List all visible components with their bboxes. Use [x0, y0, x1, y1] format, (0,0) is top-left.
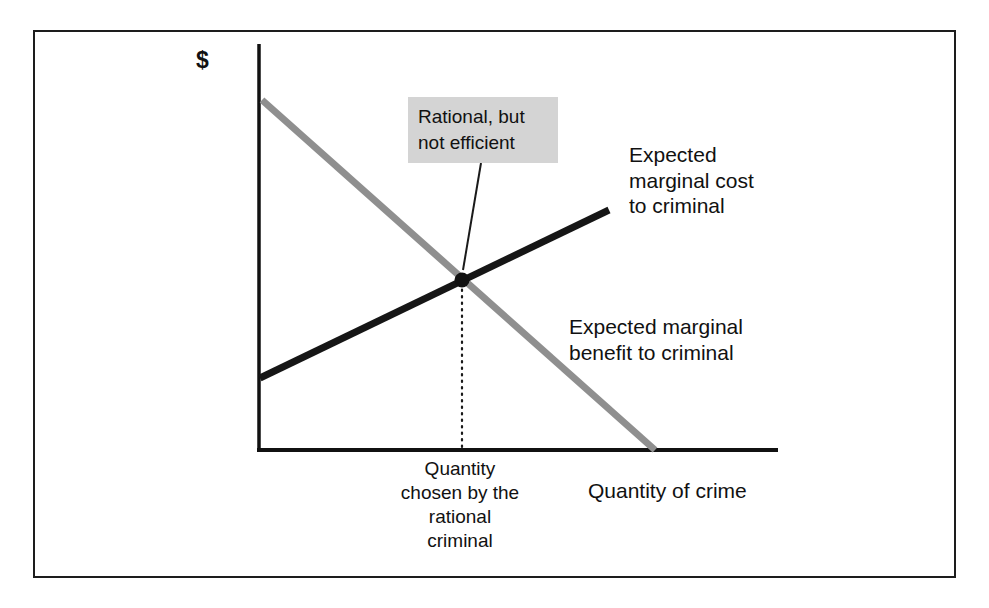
- marginal-cost-label: Expected marginal cost to criminal: [629, 142, 754, 219]
- callout-label: Rational, but not efficient: [418, 104, 525, 155]
- y-axis-label: $: [196, 46, 209, 74]
- callout-leader-line: [463, 163, 481, 270]
- marginal-cost-curve: [260, 210, 609, 378]
- quantity-chosen-label: Quantity chosen by the rational criminal: [370, 457, 550, 553]
- equilibrium-point-dot: [455, 273, 470, 288]
- figure-container: Rational, but not efficient $ Expected m…: [0, 0, 989, 608]
- x-axis-label: Quantity of crime: [588, 478, 747, 504]
- marginal-benefit-label: Expected marginal benefit to criminal: [569, 314, 743, 365]
